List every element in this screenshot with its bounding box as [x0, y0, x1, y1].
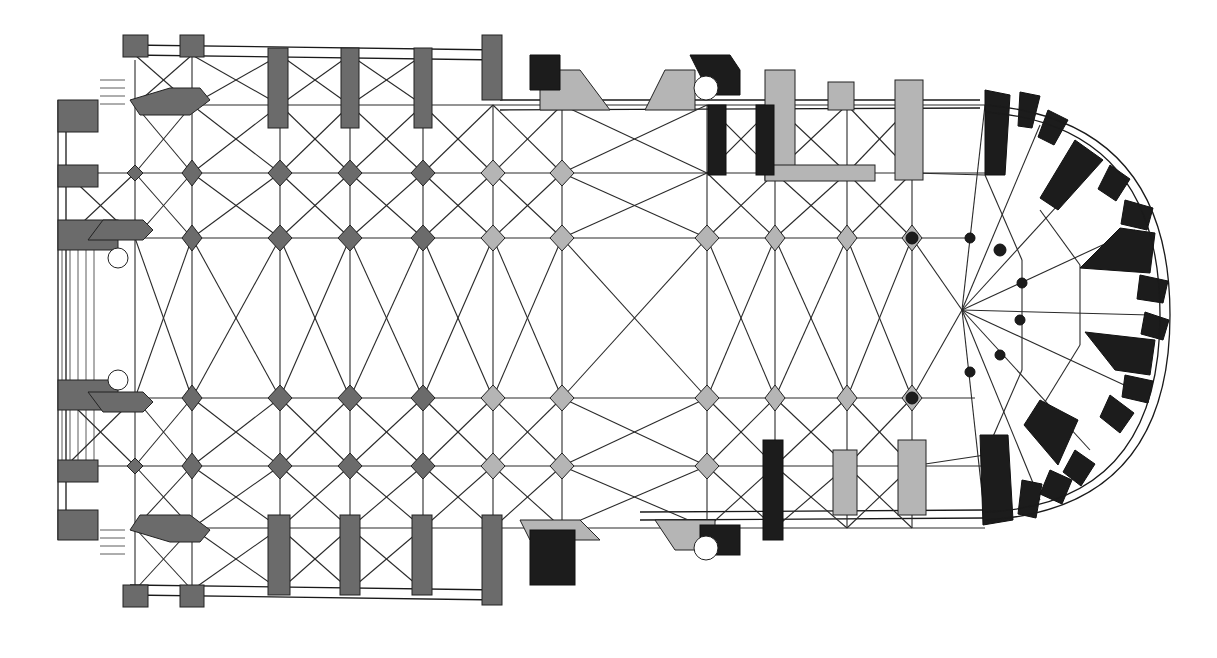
- buttresses: [58, 35, 926, 607]
- apse-buttresses: [980, 90, 1169, 525]
- apse-piers: [906, 232, 1027, 404]
- stair-turrets: [108, 76, 718, 560]
- outer-walls: [58, 45, 985, 600]
- cathedral-floor-plan: [0, 0, 1217, 658]
